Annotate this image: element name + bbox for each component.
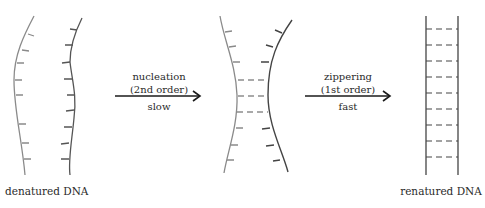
nucleated-strand-left (220, 16, 243, 173)
denatured-dna-label: denatured DNA (5, 185, 85, 197)
zippering-rate: fast (304, 100, 392, 113)
nucleation-rate: slow (115, 100, 203, 113)
renatured-duplex (426, 16, 458, 175)
renaturation-diagram (0, 0, 485, 208)
zippering-order: (1st order) (304, 83, 392, 96)
nucleation-title: nucleation (115, 70, 203, 83)
nucleated-strand-right (261, 20, 292, 172)
zippering-label-top: zippering (1st order) (304, 70, 392, 96)
nucleation-bonds (237, 80, 268, 112)
nucleation-label-top: nucleation (2nd order) (115, 70, 203, 96)
zippering-title: zippering (304, 70, 392, 83)
renatured-dna-label: renatured DNA (400, 185, 482, 197)
denatured-strand-right (61, 18, 82, 175)
nucleation-order: (2nd order) (115, 83, 203, 96)
denatured-strand-left (14, 16, 34, 175)
